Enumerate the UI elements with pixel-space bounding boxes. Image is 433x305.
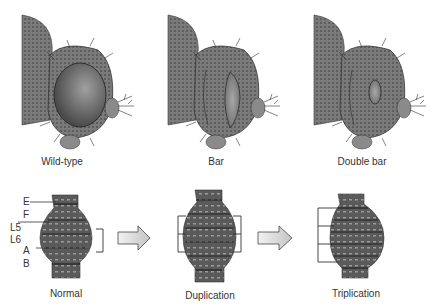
arrow-icon-normal-to-duplication	[118, 226, 150, 250]
chromosome-triplication	[318, 194, 384, 278]
region-bracket	[96, 229, 103, 252]
chromosome-diagram	[0, 0, 433, 305]
band-label-F: F	[23, 210, 29, 220]
band-label-A: A	[23, 246, 30, 256]
chromosome-duplication	[178, 190, 241, 282]
chromosome-normal	[18, 195, 103, 278]
chromosome-label-duplication: Duplication	[185, 290, 234, 301]
band-label-L5: L5	[10, 223, 21, 233]
chromosome-label-triplication: Triplication	[332, 288, 380, 299]
band-label-E: E	[23, 197, 30, 207]
chromosome-label-normal: Normal	[50, 288, 82, 299]
arrow-icon-duplication-to-triplication	[258, 226, 292, 250]
band-label-L6: L6	[10, 235, 21, 245]
band-label-B: B	[23, 259, 30, 269]
